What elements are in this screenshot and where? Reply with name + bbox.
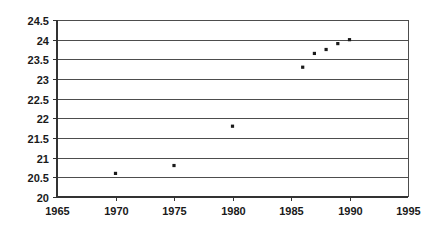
- x-tick-label: 1995: [396, 205, 420, 217]
- data-point: [301, 66, 304, 69]
- scatter-chart: 2020.52121.52222.52323.52424.5 196519701…: [0, 0, 429, 239]
- x-tick-label: 1970: [104, 205, 128, 217]
- x-tick-label: 1985: [279, 205, 303, 217]
- y-tick-label: 24.5: [28, 15, 49, 27]
- y-tick-label: 23.5: [28, 54, 49, 66]
- data-point: [231, 125, 234, 128]
- data-point: [172, 164, 175, 167]
- data-point: [114, 172, 117, 175]
- y-axis-ticks: 2020.52121.52222.52323.52424.5: [28, 15, 57, 204]
- y-tick-label: 21.5: [28, 133, 49, 145]
- data-point: [348, 38, 351, 41]
- x-tick-label: 1965: [45, 205, 69, 217]
- data-point: [336, 42, 339, 45]
- y-tick-label: 22.5: [28, 94, 49, 106]
- chart-canvas: 2020.52121.52222.52323.52424.5 196519701…: [0, 0, 429, 239]
- y-tick-label: 21: [37, 153, 49, 165]
- plot-background: [57, 20, 408, 197]
- y-tick-label: 20.5: [28, 172, 49, 184]
- data-point: [313, 52, 316, 55]
- x-tick-label: 1980: [221, 205, 245, 217]
- x-tick-label: 1990: [338, 205, 362, 217]
- y-tick-label: 20: [37, 192, 49, 204]
- y-tick-label: 22: [37, 113, 49, 125]
- x-axis-ticks: 1965197019751980198519901995: [45, 197, 420, 217]
- y-tick-label: 24: [37, 35, 50, 47]
- data-point: [325, 48, 328, 51]
- x-tick-label: 1975: [162, 205, 186, 217]
- y-tick-label: 23: [37, 74, 49, 86]
